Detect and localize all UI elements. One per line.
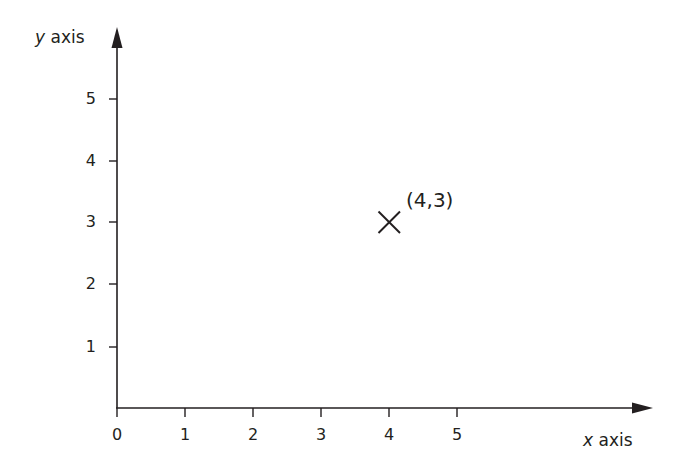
point-label: (4,3) xyxy=(406,190,453,210)
y-tick-label-3: 3 xyxy=(76,214,96,230)
chart-canvas xyxy=(0,0,681,473)
y-axis-title: y axis xyxy=(35,29,85,46)
y-axis xyxy=(112,27,123,408)
x-tick-label-5: 5 xyxy=(447,427,467,443)
x-tick-label-3: 3 xyxy=(311,427,331,443)
point-marker-cross-icon xyxy=(379,212,401,234)
x-tick-label-0: 0 xyxy=(107,427,127,443)
x-axis xyxy=(116,403,653,414)
x-axis-title-variable: x xyxy=(583,430,593,450)
y-ticks xyxy=(109,99,117,347)
y-axis-title-variable: y xyxy=(35,27,45,47)
x-axis-arrow-icon xyxy=(632,403,653,414)
x-tick-label-1: 1 xyxy=(175,427,195,443)
x-tick-label-4: 4 xyxy=(379,427,399,443)
y-tick-label-1: 1 xyxy=(76,339,96,355)
y-tick-label-5: 5 xyxy=(76,91,96,107)
y-tick-label-2: 2 xyxy=(76,276,96,292)
y-axis-title-word: axis xyxy=(50,27,84,47)
x-ticks xyxy=(117,408,457,417)
x-axis-title: x axis xyxy=(583,432,633,449)
x-tick-label-2: 2 xyxy=(243,427,263,443)
y-tick-label-4: 4 xyxy=(76,153,96,169)
y-axis-arrow-icon xyxy=(112,27,123,48)
x-axis-title-word: axis xyxy=(598,430,632,450)
